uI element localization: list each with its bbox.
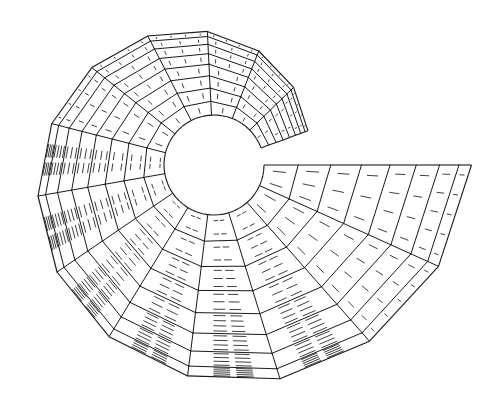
direction-mark [102,88,106,91]
direction-mark [68,163,70,174]
mesh-spoke-segment [245,77,249,86]
mesh-ring-segment [210,88,241,97]
direction-mark [281,308,293,313]
mesh-outer-boundary [52,68,92,124]
direction-mark [378,229,387,233]
direction-mark [72,289,82,301]
mesh-inner-boundary [184,205,188,208]
direction-mark [75,148,77,159]
direction-mark [264,86,266,89]
direction-mark [257,204,266,212]
mesh-spoke-segment [282,94,287,99]
direction-mark [393,282,399,286]
direction-mark [287,323,300,329]
direction-mark [104,163,105,172]
direction-mark [79,90,81,91]
direction-mark [376,271,383,276]
mesh-spoke-segment [154,193,173,206]
direction-mark [297,301,309,306]
mesh-inner-boundary [206,115,211,116]
direction-mark [453,194,458,195]
mesh-ring-segment [88,187,103,241]
mesh-spoke-segment [264,110,271,116]
mesh-spoke-segment [88,241,103,251]
mesh-spoke-segment [317,212,344,224]
direction-mark [171,36,172,38]
direction-mark [147,224,152,229]
direction-mark [154,231,159,236]
mesh-spoke-segment [189,351,191,366]
direction-mark [265,195,276,201]
mesh-inner-boundary [256,138,259,143]
direction-mark [180,269,188,273]
mesh-inner-boundary [196,117,201,119]
direction-mark [317,266,324,273]
mesh-ring-segment [46,125,59,194]
mesh-spoke-segment [351,320,362,333]
direction-mark [320,222,330,227]
mesh-inner-boundary [201,116,206,117]
mesh-spoke-segment [114,317,121,329]
direction-mark [213,372,230,373]
direction-mark [270,66,271,67]
direction-mark [288,127,290,128]
direction-mark [282,130,285,131]
direction-mark [231,55,232,58]
direction-mark [285,318,298,324]
direction-marks [43,34,465,378]
direction-mark [447,214,452,215]
direction-mark [147,85,150,89]
direction-mark [85,149,87,159]
mesh-ring-segment [112,103,136,139]
direction-mark [165,51,167,55]
mesh-spoke-segment [267,225,286,247]
direction-mark [243,69,244,73]
mesh-inner-boundary [191,118,196,120]
direction-mark [234,87,235,91]
direction-mark [289,327,303,333]
direction-mark [332,285,339,292]
direction-mark [152,184,154,189]
direction-mark [400,237,408,240]
direction-mark [63,163,65,175]
mesh-spoke-segment [75,251,88,260]
direction-mark [277,227,285,235]
direction-mark [279,75,280,76]
direction-mark [278,90,280,92]
direction-mark [156,37,157,39]
mesh-spoke-segment [270,104,276,110]
direction-mark [83,222,86,233]
mesh-spoke-segment [287,90,291,94]
direction-mark [177,205,180,208]
mesh-ring-segment [118,230,151,268]
mesh-outer-boundary [294,87,308,131]
direction-mark [275,133,278,134]
mesh-spoke-segment [46,193,58,195]
direction-mark [345,272,352,278]
direction-mark [237,376,254,377]
direction-mark [145,317,157,323]
direction-mark [266,276,275,280]
mesh-spoke-segment [64,260,75,267]
direction-mark [154,191,156,196]
mesh-inner-boundary [169,138,172,143]
direction-mark [201,81,202,86]
mesh-ring-segment [193,333,266,335]
mesh-ring-segment [177,88,210,93]
mesh-spoke-segment [82,131,96,135]
direction-mark [132,190,134,197]
direction-mark [139,331,152,338]
direction-mark [66,147,68,159]
mesh-inner-boundary [217,115,222,116]
direction-mark [120,247,127,255]
direction-mark [122,153,123,160]
mesh-spoke-segment [171,81,177,94]
mesh-inner-boundary [242,123,246,126]
direction-mark [115,116,120,119]
direction-mark [259,261,267,265]
mesh-spoke-segment [209,64,210,76]
mesh-spoke-segment [208,54,209,64]
direction-mark [199,108,201,114]
mesh-spoke-segment [148,36,151,41]
mesh-spoke-segment [289,199,317,212]
